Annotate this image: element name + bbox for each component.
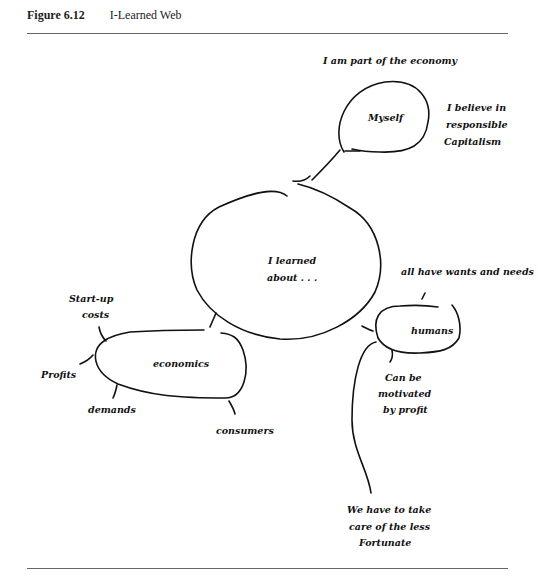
center-myself-tick bbox=[293, 176, 310, 181]
economics-connector bbox=[210, 313, 216, 327]
node-humans: humans bbox=[411, 323, 453, 338]
myself-connector bbox=[312, 150, 360, 180]
label-believe-line3: Capitalism bbox=[444, 134, 501, 149]
label-startup-line1: Start-up bbox=[69, 291, 113, 306]
label-fortunate-line2: care of the less bbox=[349, 519, 430, 534]
label-believe-line2: responsible bbox=[446, 117, 508, 132]
consumers-line bbox=[229, 401, 235, 414]
node-myself: Myself bbox=[368, 110, 403, 125]
bottom-rule bbox=[27, 568, 508, 569]
label-fortunate-line1: We have to take bbox=[347, 502, 431, 517]
profits-line bbox=[80, 355, 93, 364]
center-humans-tick bbox=[362, 326, 373, 331]
label-believe-line1: I believe in bbox=[447, 100, 506, 115]
label-profits: Profits bbox=[41, 367, 76, 382]
label-demands: demands bbox=[88, 402, 136, 417]
label-motivated-line3: by profit bbox=[383, 402, 428, 417]
startup-costs-line bbox=[99, 327, 106, 341]
label-part-of-economy: I am part of the economy bbox=[323, 53, 457, 68]
label-consumers: consumers bbox=[216, 423, 274, 438]
humans-long-line bbox=[352, 342, 376, 493]
node-economics: economics bbox=[153, 356, 209, 371]
label-fortunate-line3: Fortunate bbox=[359, 535, 411, 550]
wants-needs-tick bbox=[422, 293, 425, 299]
node-center-line1: I learned bbox=[268, 253, 316, 268]
node-center-line2: about . . . bbox=[267, 270, 317, 285]
label-startup-line2: costs bbox=[82, 307, 109, 322]
label-motivated-line2: motivated bbox=[378, 386, 431, 401]
label-motivated-line1: Can be bbox=[385, 370, 422, 385]
demands-line bbox=[113, 385, 117, 398]
motivated-tick bbox=[390, 350, 393, 362]
label-wants-needs: all have wants and needs bbox=[401, 264, 534, 279]
